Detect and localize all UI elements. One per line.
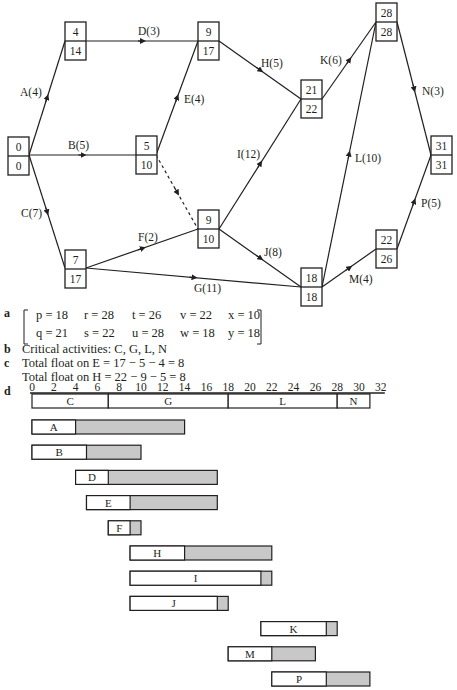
latest-time: 0	[16, 160, 22, 172]
activity-label: A(4)	[20, 86, 42, 99]
activity-label: I	[194, 572, 198, 584]
value-p: p = 18	[36, 308, 68, 323]
gantt-row-K: K	[261, 622, 337, 636]
gantt-chart: 02468101214161820222426283032CGLNABDEFHI…	[0, 380, 457, 690]
arrow-icon	[257, 256, 261, 259]
part-a-label: a	[4, 306, 10, 321]
activity-B: B(5)	[29, 139, 136, 155]
latest-time: 17	[203, 45, 215, 57]
activity-D: D(3)	[86, 25, 198, 41]
axis-tick: 30	[353, 381, 365, 393]
axis-tick: 10	[135, 381, 147, 393]
activity-label: E	[105, 497, 112, 509]
latest-time: 26	[381, 253, 393, 265]
event-node: 414	[65, 22, 86, 60]
arrow-icon	[175, 189, 177, 193]
axis-tick: 28	[331, 381, 343, 393]
activity-F: F(2)	[86, 229, 198, 268]
event-node: 917	[198, 22, 219, 60]
activity-label: B(5)	[68, 139, 89, 152]
activity-label: P	[296, 673, 302, 685]
latest-time: 17	[70, 273, 82, 285]
axis-tick: 12	[157, 381, 169, 393]
critical-activity-L: L	[279, 395, 286, 407]
value-t: t = 26	[132, 308, 161, 323]
activity-label: B	[56, 446, 63, 458]
float-e-text: Total float on E = 17 − 5 − 4 = 8	[22, 356, 184, 371]
arrow-icon	[176, 97, 178, 102]
gantt-row-P: P	[272, 672, 370, 686]
value-q: q = 21	[36, 326, 68, 341]
latest-time: 22	[306, 103, 318, 115]
latest-time: 31	[436, 159, 448, 171]
earliest-time: 31	[436, 140, 448, 152]
value-v: v = 22	[180, 308, 212, 323]
axis-tick: 20	[244, 381, 256, 393]
gantt-row-B: B	[32, 445, 141, 459]
gantt-row-E: E	[87, 496, 218, 510]
activity-label: D(3)	[138, 25, 160, 38]
activity-label: K(6)	[320, 54, 342, 67]
critical-activity-N: N	[350, 395, 358, 407]
axis-tick: 4	[73, 381, 79, 393]
gantt-row-D: D	[76, 470, 218, 484]
activity-label: M	[245, 648, 255, 660]
critical-path-bar: CGLN	[32, 394, 370, 408]
earliest-time: 0	[16, 141, 22, 153]
activity-label: F	[116, 522, 122, 534]
activity-E: E(4)	[156, 41, 205, 155]
activity-label: H	[153, 547, 161, 559]
event-node: 717	[65, 250, 86, 288]
activity-label: J	[172, 597, 177, 609]
gantt-axis: 02468101214161820222426283032	[29, 381, 387, 393]
axis-tick: 32	[375, 381, 387, 393]
critical-activities-text: Critical activities: C, G, L, N	[22, 342, 167, 357]
latest-time: 10	[203, 233, 215, 245]
axis-tick: 16	[201, 381, 213, 393]
gantt-row-I: I	[130, 571, 272, 585]
value-r: r = 28	[84, 308, 114, 323]
axis-tick: 0	[29, 381, 35, 393]
gantt-row-M: M	[228, 647, 315, 661]
latest-time: 14	[70, 45, 82, 57]
activity-label: L(10)	[355, 152, 381, 165]
critical-activity-C: C	[66, 395, 73, 407]
earliest-time: 7	[73, 254, 79, 266]
critical-activity-G: G	[164, 395, 172, 407]
value-s: s = 22	[84, 326, 115, 341]
earliest-time: 9	[206, 26, 212, 38]
activity-label: H(5)	[261, 57, 283, 70]
arrow-icon	[413, 85, 414, 90]
arrow-icon	[346, 267, 350, 270]
event-node: 1818	[301, 268, 322, 306]
activity-label: D	[88, 471, 96, 483]
value-w: w = 18	[180, 326, 215, 341]
latest-time: 10	[141, 159, 153, 171]
value-y: y = 18	[228, 326, 260, 341]
event-node: 3131	[431, 136, 452, 174]
axis-tick: 24	[288, 381, 300, 393]
part-b-label: b	[4, 342, 11, 357]
event-node: 2226	[376, 230, 397, 268]
activity-label: P(5)	[421, 197, 441, 210]
earliest-time: 22	[381, 234, 393, 246]
axis-tick: 26	[310, 381, 322, 393]
gantt-row-J: J	[130, 596, 228, 610]
activity-J: J(8)	[219, 229, 301, 287]
arrow-icon	[348, 154, 349, 159]
activity-G: G(11)	[86, 268, 301, 295]
value-x: x = 10	[228, 308, 260, 323]
axis-tick: 8	[116, 381, 122, 393]
activity-label: F(2)	[138, 231, 158, 244]
arrow-icon	[347, 60, 350, 64]
left-bracket-icon	[22, 309, 30, 345]
arrow-icon	[46, 97, 48, 102]
earliest-time: 21	[306, 84, 318, 96]
axis-tick: 22	[266, 381, 278, 393]
arrow-icon	[413, 201, 415, 206]
latest-time: 18	[306, 291, 318, 303]
activity-label: N(3)	[422, 85, 444, 98]
activity-H: H(5)	[219, 41, 301, 99]
arrow-icon	[138, 248, 143, 250]
activity-N: N(3)	[397, 22, 444, 155]
